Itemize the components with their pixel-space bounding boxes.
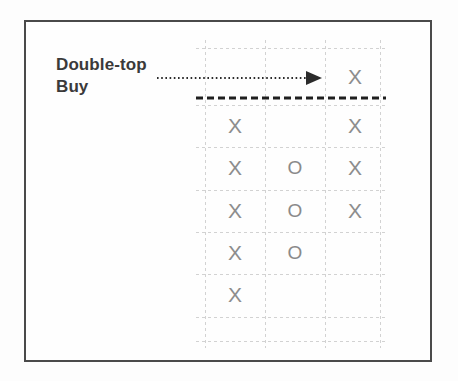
cell-mark-c3-r4: X <box>325 190 385 232</box>
pattern-annotation-label: Double-top Buy <box>56 54 186 98</box>
cell-mark-c3-r1: X <box>325 56 385 98</box>
pattern-label-line-2: Buy <box>56 76 186 98</box>
cell-mark-c2-r3: O <box>265 147 325 189</box>
breakout-arrow-head <box>306 71 322 85</box>
cell-mark-c1-r6: X <box>205 274 265 316</box>
cell-mark-c3-r3: X <box>325 147 385 189</box>
cell-mark-c1-r2: X <box>205 105 265 147</box>
cell-mark-c1-r5: X <box>205 232 265 274</box>
point-and-figure-chart: X X X X X X X X X O O O Double-top Buy <box>0 0 458 381</box>
cell-mark-c2-r5: O <box>265 232 325 274</box>
cell-mark-c2-r4: O <box>265 190 325 232</box>
pattern-label-line-1: Double-top <box>56 54 186 76</box>
cell-mark-c3-r2: X <box>325 105 385 147</box>
cell-mark-c1-r4: X <box>205 190 265 232</box>
cell-mark-c1-r3: X <box>205 147 265 189</box>
